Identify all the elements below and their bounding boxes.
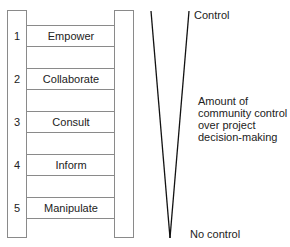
no-control-label: No control — [190, 228, 240, 240]
description-line: decision-making — [198, 131, 287, 143]
description-line: Amount of — [198, 95, 287, 107]
ladder-of-participation-diagram: 1 Empower 2 Collaborate 3 Consult 4 Info… — [0, 0, 290, 247]
description-line: community control — [198, 107, 287, 119]
control-label: Control — [194, 9, 229, 21]
description-line: over project — [198, 119, 287, 131]
scale-description: Amount of community control over project… — [198, 95, 287, 143]
